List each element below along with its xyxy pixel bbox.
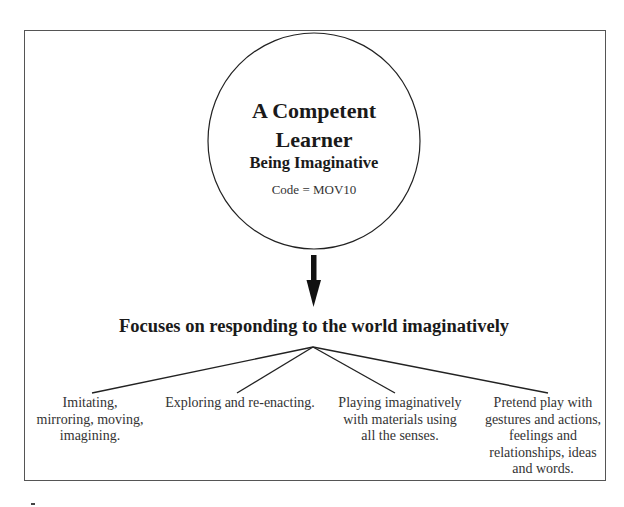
- branch-line-3: [313, 347, 395, 393]
- branch-leaf-1: Imitating, mirroring, moving, imagining.: [30, 395, 150, 445]
- branch-line-1: [92, 347, 313, 393]
- branch-leaf-line: imagining.: [30, 428, 150, 445]
- branch-line-4: [313, 347, 548, 393]
- branch-leaf-line: all the senses.: [330, 428, 470, 445]
- branch-leaf-2: Exploring and re-enacting.: [160, 395, 320, 412]
- branch-leaf-line: mirroring, moving,: [30, 412, 150, 429]
- branch-leaf-line: with materials using: [330, 412, 470, 429]
- central-node-subtitle: Being Imaginative: [208, 153, 420, 173]
- branch-leaf-line: Pretend play with: [480, 395, 606, 412]
- branch-leaf-line: feelings and: [480, 428, 606, 445]
- central-node-title-line1: A Competent: [208, 98, 420, 124]
- branch-leaf-line: Imitating,: [30, 395, 150, 412]
- scan-artifact-mark: [31, 503, 35, 505]
- branch-lines: [92, 347, 548, 393]
- branch-leaf-line: and words.: [480, 461, 606, 478]
- central-node-title-line2: Learner: [208, 127, 420, 153]
- branch-leaf-line: gestures and actions,: [480, 412, 606, 429]
- central-node-code: Code = MOV10: [208, 182, 420, 198]
- branch-leaf-4: Pretend play with gestures and actions, …: [480, 395, 606, 478]
- branch-leaf-line: Exploring and re-enacting.: [160, 395, 320, 412]
- branch-leaf-line: Playing imaginatively: [330, 395, 470, 412]
- down-arrow-icon: [307, 255, 322, 307]
- branch-leaf-line: relationships, ideas: [480, 445, 606, 462]
- branch-line-2: [237, 347, 313, 393]
- focus-heading: Focuses on responding to the world imagi…: [100, 316, 528, 337]
- branch-leaf-3: Playing imaginatively with materials usi…: [330, 395, 470, 445]
